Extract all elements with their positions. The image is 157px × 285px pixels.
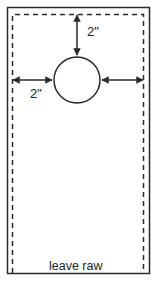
- pattern-diagram: 2" 2" leave raw: [0, 0, 157, 285]
- panel-outline: [8, 8, 150, 274]
- bottom-edge-label: leave raw: [49, 259, 103, 273]
- circle-cutout: [54, 57, 100, 103]
- seam-line-dashed: [13, 15, 144, 274]
- left-offset-label: 2": [30, 86, 42, 101]
- top-offset-label: 2": [87, 24, 99, 39]
